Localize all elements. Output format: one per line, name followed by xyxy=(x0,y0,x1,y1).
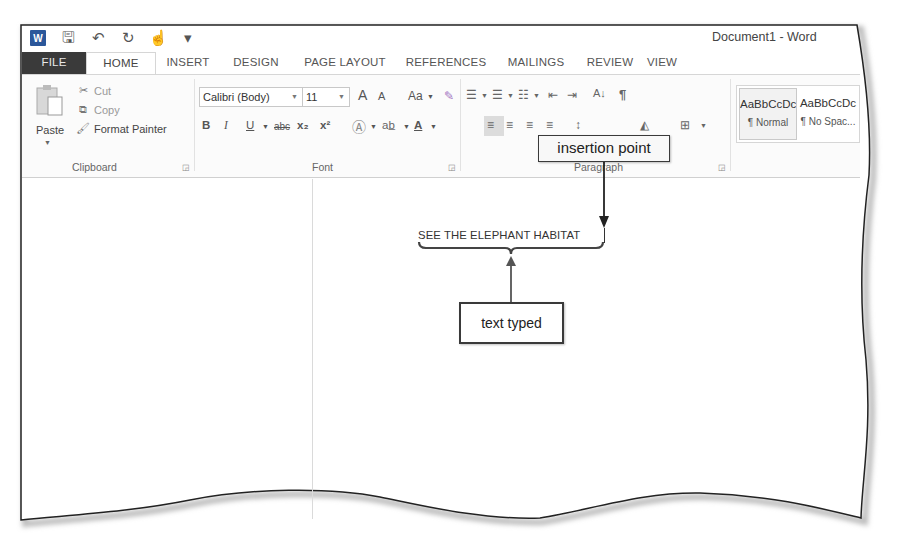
tab-page-layout[interactable]: PAGE LAYOUT xyxy=(292,52,398,74)
superscript-button[interactable]: x² xyxy=(320,119,330,131)
strikethrough-button[interactable]: abc xyxy=(274,121,290,132)
group-divider xyxy=(194,79,195,171)
decrease-indent-icon[interactable]: ⇤ xyxy=(548,88,558,102)
clipboard-paste-icon[interactable] xyxy=(36,84,64,118)
multilevel-list-icon[interactable]: ☷ xyxy=(518,88,529,102)
copy-icon: ⧉ xyxy=(76,103,90,116)
align-right-icon[interactable]: ≡ xyxy=(526,118,533,132)
tab-insert[interactable]: INSERT xyxy=(156,52,220,74)
highlight-color-icon[interactable]: ab̲ xyxy=(382,119,395,131)
change-case-button[interactable]: Aa xyxy=(408,89,423,103)
clear-formatting-icon[interactable]: ✎ xyxy=(444,89,454,103)
document-text[interactable]: SEE THE ELEPHANT HABITAT xyxy=(418,229,580,241)
chevron-down-icon[interactable]: ▼ xyxy=(533,92,540,99)
font-size-dropdown[interactable]: 11 ▼ xyxy=(302,87,350,107)
tab-home[interactable]: HOME xyxy=(86,52,156,74)
tab-review[interactable]: REVIEW xyxy=(578,52,642,74)
tab-mailings[interactable]: MAILINGS xyxy=(494,52,578,74)
justify-icon[interactable]: ≡ xyxy=(546,118,553,132)
scissors-icon: ✂ xyxy=(76,84,90,97)
bold-button[interactable]: B xyxy=(202,119,210,131)
chevron-down-icon[interactable]: ▼ xyxy=(262,123,269,130)
font-group-label: Font xyxy=(312,161,333,173)
group-divider xyxy=(460,79,461,171)
style-no-spacing[interactable]: AaBbCcDc ¶ No Spac... xyxy=(799,88,857,140)
paste-dropdown-icon[interactable]: ▼ xyxy=(44,139,51,146)
insertion-point-caret xyxy=(604,228,605,243)
paintbrush-icon: 🖌 xyxy=(76,122,90,135)
page-left-edge xyxy=(312,179,313,519)
shrink-font-button[interactable]: A xyxy=(378,90,385,102)
word-logo-icon[interactable]: W xyxy=(30,30,46,46)
chevron-down-icon[interactable]: ▼ xyxy=(700,122,707,129)
increase-indent-icon[interactable]: ⇥ xyxy=(567,88,577,102)
chevron-down-icon[interactable]: ▼ xyxy=(427,93,434,100)
insertion-point-callout: insertion point xyxy=(538,135,670,162)
chevron-down-icon[interactable]: ▼ xyxy=(403,123,410,130)
chevron-down-icon[interactable]: ▼ xyxy=(481,92,488,99)
touch-mode-icon[interactable]: ☝ xyxy=(150,30,166,46)
paragraph-launcher-icon[interactable]: ◲ xyxy=(718,163,726,172)
styles-gallery: AaBbCcDc ¶ Normal AaBbCcDc ¶ No Spac... xyxy=(736,85,860,143)
window-title: Document1 - Word xyxy=(712,30,817,44)
show-hide-formatting-icon[interactable]: ¶ xyxy=(619,87,626,102)
tab-view[interactable]: VIEW xyxy=(642,52,682,74)
bullets-icon[interactable]: ☰ xyxy=(466,88,477,102)
copy-button[interactable]: ⧉ Copy xyxy=(76,103,120,116)
paragraph-group-label: Paragraph xyxy=(574,161,623,173)
line-spacing-icon[interactable]: ↕ xyxy=(575,118,581,132)
customize-qat-icon[interactable]: ▾ xyxy=(180,30,196,46)
chevron-down-icon: ▼ xyxy=(291,88,298,106)
borders-icon[interactable]: ⊞ xyxy=(680,118,690,132)
font-color-icon[interactable]: A xyxy=(414,119,422,131)
chevron-down-icon[interactable]: ▼ xyxy=(430,123,437,130)
shading-icon[interactable]: ◭ xyxy=(640,118,649,132)
paste-button[interactable]: Paste xyxy=(36,124,64,136)
cut-button[interactable]: ✂ Cut xyxy=(76,84,111,97)
italic-button[interactable]: I xyxy=(224,119,228,131)
font-name-dropdown[interactable]: Calibri (Body) ▼ xyxy=(199,87,303,107)
sort-icon[interactable]: A↓ xyxy=(593,87,606,99)
text-typed-callout: text typed xyxy=(459,302,564,344)
subscript-button[interactable]: x₂ xyxy=(297,119,309,131)
group-divider xyxy=(730,79,731,171)
ribbon-tabs: FILE HOME INSERT DESIGN PAGE LAYOUT REFE… xyxy=(22,52,682,74)
grow-font-button[interactable]: A xyxy=(358,87,367,103)
chevron-down-icon[interactable]: ▼ xyxy=(507,92,514,99)
tab-file[interactable]: FILE xyxy=(22,52,86,74)
numbering-icon[interactable]: ☰ xyxy=(492,88,503,102)
style-normal[interactable]: AaBbCcDc ¶ Normal xyxy=(739,88,797,140)
font-launcher-icon[interactable]: ◲ xyxy=(448,163,456,172)
chevron-down-icon[interactable]: ▼ xyxy=(370,123,377,130)
underline-button[interactable]: U xyxy=(246,119,254,131)
save-icon[interactable]: 🖫 xyxy=(60,30,76,46)
redo-icon[interactable]: ↻ xyxy=(120,30,136,46)
chevron-down-icon: ▼ xyxy=(338,88,345,106)
tab-design[interactable]: DESIGN xyxy=(220,52,292,74)
quick-access-toolbar: W 🖫 ↶ ↻ ☝ ▾ xyxy=(30,28,196,48)
tab-references[interactable]: REFERENCES xyxy=(398,52,494,74)
clipboard-group-label: Clipboard xyxy=(72,161,117,173)
align-left-icon[interactable]: ≡ xyxy=(487,118,494,132)
text-effects-icon[interactable]: Ⓐ xyxy=(352,116,366,136)
undo-icon[interactable]: ↶ xyxy=(90,30,106,46)
ribbon-home: Paste ▼ ✂ Cut ⧉ Copy 🖌 Format Painter Cl… xyxy=(22,74,860,178)
clipboard-launcher-icon[interactable]: ◲ xyxy=(182,163,190,172)
format-painter-button[interactable]: 🖌 Format Painter xyxy=(76,122,167,135)
align-center-icon[interactable]: ≡ xyxy=(506,118,513,132)
